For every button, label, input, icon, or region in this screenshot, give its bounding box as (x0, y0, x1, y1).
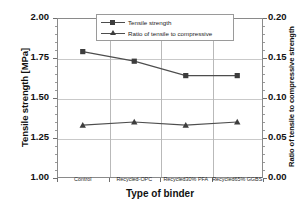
axis-minor-tick (55, 26, 57, 27)
legend-label: Tensile strength (126, 19, 171, 26)
axis-minor-tick (55, 130, 57, 131)
plot-area (57, 18, 263, 178)
axis-tick (263, 58, 267, 59)
axis-minor-tick (55, 170, 57, 171)
axis-minor-tick (263, 82, 265, 83)
y-axis-right-tick-label: 0.20 (268, 11, 307, 22)
legend-square-marker-icon (100, 17, 126, 28)
axis-minor-tick (55, 106, 57, 107)
axis-tick (263, 138, 267, 139)
gridline-vertical (110, 19, 111, 177)
axis-minor-tick (263, 170, 265, 171)
axis-minor-tick (263, 90, 265, 91)
y-axis-left-tick-label: 1.50 (3, 91, 49, 102)
x-axis-tick-label: Recycled65% GGBS (207, 176, 267, 182)
axis-tick (263, 98, 267, 99)
axis-minor-tick (55, 122, 57, 123)
legend-entry-tensile-strength: Tensile strength (100, 17, 230, 28)
y-axis-left-tick-label: 1.00 (3, 171, 49, 182)
y-axis-right-tick-label: 0.00 (268, 171, 307, 182)
axis-tick (53, 98, 57, 99)
axis-minor-tick (55, 42, 57, 43)
axis-minor-tick (263, 162, 265, 163)
axis-minor-tick (55, 82, 57, 83)
y-axis-left-tick-label: 1.25 (3, 131, 49, 142)
axis-minor-tick (263, 26, 265, 27)
axis-minor-tick (263, 50, 265, 51)
gridline-vertical (213, 19, 214, 177)
axis-minor-tick (263, 146, 265, 147)
y-axis-left-tick-label: 1.75 (3, 51, 49, 62)
axis-minor-tick (55, 66, 57, 67)
axis-minor-tick (263, 114, 265, 115)
axis-minor-tick (263, 66, 265, 67)
axis-minor-tick (55, 154, 57, 155)
axis-minor-tick (263, 154, 265, 155)
gridline-horizontal (58, 139, 262, 140)
y-axis-right-tick-label: 0.10 (268, 91, 307, 102)
x-axis-title: Type of binder (57, 188, 263, 199)
axis-minor-tick (55, 34, 57, 35)
axis-minor-tick (55, 162, 57, 163)
gridline-horizontal (58, 59, 262, 60)
axis-minor-tick (263, 122, 265, 123)
legend-entry-ratio: Ratio of tensile to compressive (100, 28, 230, 39)
legend-triangle-marker-icon (100, 28, 126, 39)
axis-minor-tick (263, 42, 265, 43)
y-axis-right-tick-label: 0.15 (268, 51, 307, 62)
y-axis-left-tick-label: 2.00 (3, 11, 49, 22)
axis-tick (263, 18, 267, 19)
axis-tick (53, 58, 57, 59)
gridline-vertical (161, 19, 162, 177)
axis-tick (53, 138, 57, 139)
axis-minor-tick (263, 34, 265, 35)
gridline-horizontal (58, 99, 262, 100)
axis-minor-tick (263, 130, 265, 131)
axis-minor-tick (55, 146, 57, 147)
axis-minor-tick (263, 74, 265, 75)
axis-minor-tick (263, 106, 265, 107)
chart-legend: Tensile strength Ratio of tensile to com… (96, 14, 234, 41)
axis-minor-tick (55, 114, 57, 115)
axis-minor-tick (55, 90, 57, 91)
axis-minor-tick (55, 74, 57, 75)
legend-label: Ratio of tensile to compressive (126, 30, 212, 37)
y-axis-right-tick-label: 0.05 (268, 131, 307, 142)
chart-figure: Tensile strength [MPa] Ratio of tensile … (0, 0, 307, 210)
axis-minor-tick (55, 50, 57, 51)
axis-tick (53, 18, 57, 19)
